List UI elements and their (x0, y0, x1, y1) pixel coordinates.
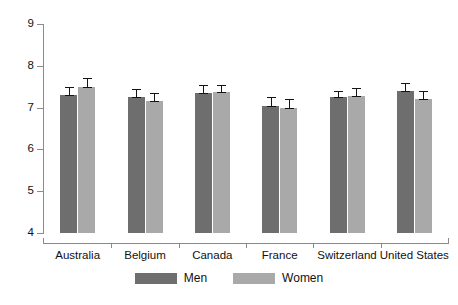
error-bar-stem (271, 97, 272, 105)
y-tick-7 (37, 108, 43, 109)
error-bar-cap-upper (285, 99, 294, 100)
error-bar-cap-lower (401, 91, 410, 92)
error-bar-cap-upper (150, 93, 159, 94)
error-bar-cap-upper (267, 97, 276, 98)
legend-swatch-men (135, 273, 177, 284)
legend-label-women: Women (282, 272, 323, 284)
error-bar-cap-upper (217, 85, 226, 86)
y-tick-4 (37, 233, 43, 234)
error-bar-cap-lower (150, 101, 159, 102)
error-bar-stem (405, 83, 406, 91)
error-bar-cap-upper (83, 78, 92, 79)
bar-belgium-women (146, 101, 163, 233)
error-bar-cap-lower (199, 93, 208, 94)
error-bar-cap-upper (334, 91, 343, 92)
error-bar-cap-lower (285, 108, 294, 109)
error-bar-cap-upper (352, 88, 361, 89)
x-tick-2 (179, 243, 180, 248)
legend-swatch-women (233, 273, 275, 284)
error-bar-cap-lower (267, 106, 276, 107)
legend-item-women[interactable]: Women (233, 272, 323, 284)
error-bar-cap-upper (199, 85, 208, 86)
y-tick-5 (37, 191, 43, 192)
x-axis-cap-right (448, 238, 449, 244)
bar-canada-men (195, 93, 212, 233)
legend-item-men[interactable]: Men (135, 272, 207, 284)
error-bar-stem (289, 99, 290, 107)
bar-france-men (262, 106, 279, 233)
error-bar-cap-upper (65, 87, 74, 88)
error-bar-stem (203, 85, 204, 93)
error-bar-stem (154, 93, 155, 101)
error-bar-cap-lower (132, 97, 141, 98)
y-tick-label-5: 5 (8, 185, 34, 197)
error-bar-stem (221, 85, 222, 92)
bar-australia-women (78, 87, 95, 233)
error-bar-cap-upper (419, 91, 428, 92)
bar-united-states-men (397, 91, 414, 233)
x-tick-1 (111, 243, 112, 248)
x-tick-4 (313, 243, 314, 248)
y-tick-8 (37, 66, 43, 67)
error-bar-cap-lower (334, 97, 343, 98)
y-tick-label-7: 7 (8, 102, 34, 114)
bar-australia-men (60, 95, 77, 233)
bar-belgium-men (128, 97, 145, 233)
x-tick-5 (381, 243, 382, 248)
bar-france-women (280, 108, 297, 233)
y-tick-label-4: 4 (8, 227, 34, 239)
x-tick-3 (246, 243, 247, 248)
error-bar-cap-lower (419, 99, 428, 100)
y-tick-6 (37, 149, 43, 150)
y-tick-9 (37, 24, 43, 25)
plot-area (44, 24, 448, 233)
error-bar-stem (136, 89, 137, 97)
error-bar-cap-upper (132, 89, 141, 90)
bar-switzerland-women (348, 96, 365, 233)
legend: MenWomen (0, 272, 458, 284)
bar-switzerland-men (330, 97, 347, 233)
error-bar-stem (69, 87, 70, 95)
error-bar-cap-upper (401, 83, 410, 84)
bar-canada-women (213, 92, 230, 233)
error-bar-cap-lower (83, 87, 92, 88)
error-bar-cap-lower (217, 92, 226, 93)
error-bar-cap-lower (65, 95, 74, 96)
x-axis-cap-left (43, 238, 44, 244)
y-tick-label-6: 6 (8, 143, 34, 155)
error-bar-stem (356, 88, 357, 96)
legend-label-men: Men (184, 272, 207, 284)
bar-chart: 456789 AustraliaBelgiumCanadaFranceSwitz… (0, 0, 458, 305)
x-label-united-states: United States (369, 250, 458, 262)
y-tick-label-9: 9 (8, 18, 34, 30)
bar-united-states-women (415, 99, 432, 233)
y-tick-label-8: 8 (8, 60, 34, 72)
error-bar-cap-lower (352, 96, 361, 97)
error-bar-stem (87, 78, 88, 87)
error-bar-stem (423, 91, 424, 99)
